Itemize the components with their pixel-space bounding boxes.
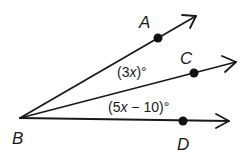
point-d bbox=[179, 117, 188, 126]
ray-bd bbox=[20, 114, 229, 128]
point-c bbox=[190, 69, 199, 78]
angle-cbd-label: (5x − 10)° bbox=[108, 99, 169, 115]
label-a: A bbox=[138, 13, 150, 32]
angle-abc-label: (3x)° bbox=[117, 64, 147, 80]
label-d: D bbox=[177, 135, 189, 152]
angle-diagram: A C B D (3x)° (5x − 10)° bbox=[0, 0, 250, 152]
label-b: B bbox=[12, 129, 23, 148]
label-c: C bbox=[180, 49, 193, 68]
point-a bbox=[154, 34, 163, 43]
